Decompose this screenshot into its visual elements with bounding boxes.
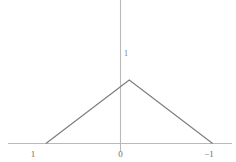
x-tick-label-left: 1	[26, 150, 40, 159]
tent-function-curve	[46, 80, 213, 144]
plot-canvas	[0, 0, 236, 162]
plot-figure: 1 0 −1 1	[0, 0, 236, 162]
x-tick-label-right: −1	[200, 150, 218, 159]
x-tick-label-center: 0	[114, 150, 128, 159]
apex-value-label: 1	[124, 50, 128, 58]
